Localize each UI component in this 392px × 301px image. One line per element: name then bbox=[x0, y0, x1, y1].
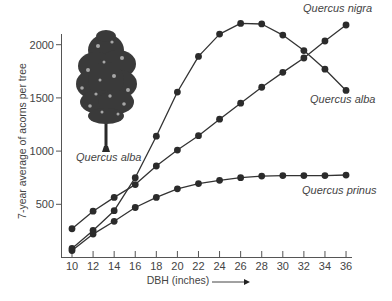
data-point bbox=[216, 177, 223, 184]
data-point bbox=[132, 204, 139, 211]
label-quercus-nigra: Quercus nigra bbox=[303, 2, 372, 14]
data-point bbox=[237, 20, 244, 27]
x-tick-label: 26 bbox=[235, 260, 247, 272]
data-point bbox=[132, 174, 139, 181]
data-point bbox=[343, 22, 350, 29]
x-ticks: 1012141618202224262830323436 bbox=[66, 251, 352, 272]
data-point bbox=[174, 147, 181, 154]
x-tick-label: 32 bbox=[298, 260, 310, 272]
data-point bbox=[300, 172, 307, 179]
data-point bbox=[216, 31, 223, 38]
data-point bbox=[90, 208, 97, 215]
data-point bbox=[90, 231, 97, 238]
x-tick-label: 30 bbox=[277, 260, 289, 272]
x-tick-label: 18 bbox=[150, 260, 162, 272]
y-tick-label: 1000 bbox=[30, 145, 54, 157]
y-tick-label: 500 bbox=[36, 198, 54, 210]
data-point bbox=[237, 100, 244, 107]
y-ticks: 500100015002000 bbox=[30, 39, 62, 211]
x-axis-arrow-icon bbox=[212, 279, 250, 285]
x-tick-label: 16 bbox=[129, 260, 141, 272]
data-point bbox=[279, 32, 286, 39]
data-point bbox=[153, 133, 160, 140]
y-tick-label: 1500 bbox=[30, 92, 54, 104]
data-point bbox=[300, 47, 307, 54]
data-point bbox=[258, 84, 265, 91]
data-point bbox=[300, 55, 307, 62]
label-quercus-alba: Quercus alba bbox=[310, 93, 375, 105]
x-tick-label: 34 bbox=[319, 260, 331, 272]
x-tick-label: 10 bbox=[66, 260, 78, 272]
x-tick-label: 20 bbox=[171, 260, 183, 272]
data-point bbox=[69, 225, 76, 232]
data-point bbox=[174, 89, 181, 96]
data-point bbox=[153, 194, 160, 201]
data-point bbox=[195, 53, 202, 60]
data-point bbox=[322, 66, 329, 73]
data-point bbox=[322, 38, 329, 45]
x-axis-title: DBH (inches) bbox=[147, 274, 209, 286]
x-tick-label: 24 bbox=[213, 260, 225, 272]
x-tick-label: 28 bbox=[256, 260, 268, 272]
y-axis-title: 7-year average of acorns per tree bbox=[16, 63, 28, 219]
data-point bbox=[343, 172, 350, 179]
data-point bbox=[258, 173, 265, 180]
data-point bbox=[111, 218, 118, 225]
x-tick-label: 22 bbox=[192, 260, 204, 272]
data-point bbox=[195, 180, 202, 187]
data-point bbox=[279, 172, 286, 179]
data-point bbox=[111, 207, 118, 214]
data-point bbox=[153, 163, 160, 170]
y-tick-label: 2000 bbox=[30, 39, 54, 51]
x-tick-label: 36 bbox=[340, 260, 352, 272]
acorn-production-chart: Quercus alba 500100015002000 10121416182… bbox=[0, 0, 392, 301]
data-point bbox=[111, 194, 118, 201]
tree-label: Quercus alba bbox=[76, 151, 141, 163]
data-point bbox=[195, 132, 202, 139]
x-tick-label: 12 bbox=[87, 260, 99, 272]
label-quercus-prinus: Quercus prinus bbox=[302, 184, 377, 196]
data-point bbox=[216, 116, 223, 123]
oak-tree-illustration bbox=[76, 30, 137, 152]
data-point bbox=[174, 185, 181, 192]
data-point bbox=[258, 21, 265, 28]
data-point bbox=[322, 172, 329, 179]
data-point bbox=[279, 69, 286, 76]
x-tick-label: 14 bbox=[108, 260, 120, 272]
data-point bbox=[69, 247, 76, 254]
data-point bbox=[237, 174, 244, 181]
